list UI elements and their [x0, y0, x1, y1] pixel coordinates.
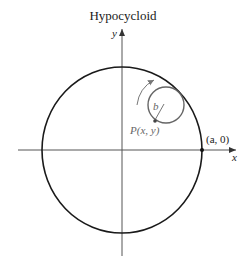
y-axis-label: y — [111, 27, 117, 39]
point-p-label: P(x, y) — [129, 124, 160, 137]
point-a-dot — [200, 148, 204, 152]
radius-b-label: b — [153, 100, 159, 112]
point-a-label: (a, 0) — [206, 133, 230, 146]
hypocycloid-diagram: Hypocycloid x y (a, 0) b P(x, y) — [0, 0, 251, 267]
point-p-dot — [153, 119, 157, 123]
x-axis-label: x — [231, 151, 237, 163]
rotation-arrow-icon — [137, 80, 154, 105]
diagram-title: Hypocycloid — [89, 8, 157, 23]
